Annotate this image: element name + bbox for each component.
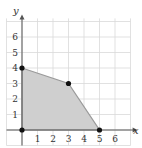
x-tick-label: 1 bbox=[35, 134, 41, 144]
x-tick-label: 3 bbox=[66, 134, 72, 144]
y-tick-label: 6 bbox=[12, 32, 18, 42]
vertex-point bbox=[19, 127, 24, 132]
x-tick-label: 2 bbox=[50, 134, 56, 144]
x-tick-label: 5 bbox=[97, 134, 103, 144]
y-axis-arrow-icon bbox=[20, 14, 25, 19]
y-axis-label: y bbox=[12, 5, 19, 16]
y-tick-label: 4 bbox=[12, 63, 18, 73]
vertex-point bbox=[97, 127, 102, 132]
vertex-point bbox=[19, 65, 24, 70]
x-tick-label: 6 bbox=[112, 134, 118, 144]
x-axis-label: x bbox=[133, 125, 139, 136]
vertex-point bbox=[66, 81, 71, 86]
y-tick-label: 3 bbox=[12, 79, 18, 89]
y-tick-label: 5 bbox=[12, 48, 18, 58]
x-tick-label: 4 bbox=[81, 134, 87, 144]
chart: 123456123456 x y bbox=[0, 0, 142, 148]
y-tick-label: 1 bbox=[12, 110, 18, 120]
y-tick-label: 2 bbox=[12, 94, 18, 104]
